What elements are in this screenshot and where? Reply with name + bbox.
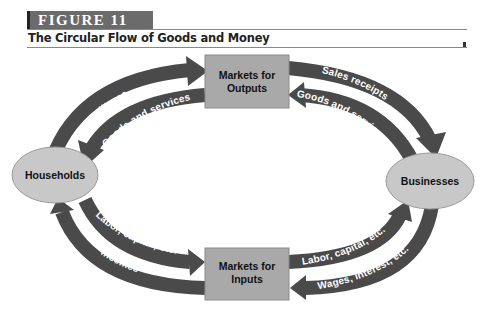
markets-outputs-line2: Outputs bbox=[227, 82, 267, 94]
markets-outputs-line1: Markets for bbox=[219, 69, 276, 81]
businesses-label: Businesses bbox=[401, 175, 460, 187]
households-label: Households bbox=[25, 169, 85, 181]
node-markets-for-outputs: Markets for Outputs bbox=[205, 55, 289, 108]
circular-flow-diagram: Expenditures Goods and services Sales re… bbox=[0, 0, 489, 314]
node-households: Households bbox=[12, 147, 98, 203]
markets-inputs-line2: Inputs bbox=[231, 273, 263, 285]
node-businesses: Businesses bbox=[386, 153, 474, 209]
node-markets-for-inputs: Markets for Inputs bbox=[205, 248, 289, 300]
markets-inputs-line1: Markets for bbox=[219, 260, 276, 272]
